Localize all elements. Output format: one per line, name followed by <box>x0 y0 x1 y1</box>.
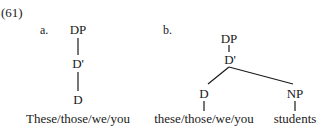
branch-b-dbar-np <box>229 67 293 84</box>
branch-b-dbar-d <box>208 67 229 84</box>
tree-branches <box>0 0 321 134</box>
